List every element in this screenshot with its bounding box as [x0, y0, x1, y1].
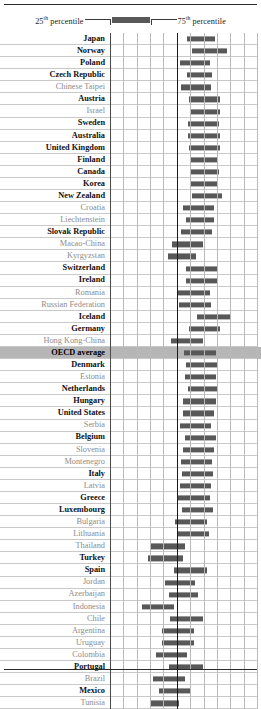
chart-row: Greece — [0, 492, 261, 504]
chart-row: Belgium — [0, 432, 261, 444]
country-plot-area — [110, 299, 261, 311]
country-label: Finland — [0, 154, 110, 166]
range-bar — [178, 495, 210, 500]
chart-row: Japan — [0, 33, 261, 45]
chart-row: Germany — [0, 323, 261, 335]
legend-leader-left — [85, 19, 111, 20]
chart-row: Spain — [0, 564, 261, 576]
country-label: Ireland — [0, 275, 110, 287]
country-plot-area — [110, 685, 261, 697]
country-label: Hong Kong-China — [0, 335, 110, 347]
country-label: Denmark — [0, 359, 110, 371]
range-bar — [192, 193, 222, 198]
chart-row: Turkey — [0, 552, 261, 564]
country-label: Lithuania — [0, 528, 110, 540]
chart-row: Russian Federation — [0, 299, 261, 311]
range-bar — [172, 242, 202, 247]
country-plot-area — [110, 589, 261, 601]
country-label: New Zealand — [0, 190, 110, 202]
chart-row: Denmark — [0, 359, 261, 371]
range-bar-chart: JapanNorwayPolandCzech RepublicChinese T… — [0, 33, 261, 709]
range-bar — [192, 49, 227, 54]
range-bar — [183, 411, 215, 416]
chart-row: Brazil — [0, 673, 261, 685]
country-label: Latvia — [0, 480, 110, 492]
range-bar — [187, 73, 212, 78]
country-label: Iceland — [0, 311, 110, 323]
range-bar — [190, 157, 218, 162]
range-bar — [180, 423, 211, 428]
range-bar — [153, 677, 186, 682]
country-label: Norway — [0, 45, 110, 57]
bottom-divider — [4, 669, 257, 670]
country-plot-area — [110, 287, 261, 299]
range-bar — [179, 302, 211, 307]
range-bar — [180, 61, 209, 66]
country-plot-area — [110, 130, 261, 142]
range-bar — [184, 350, 216, 355]
country-plot-area — [110, 540, 261, 552]
country-label: Montenegro — [0, 456, 110, 468]
country-label: Colombia — [0, 649, 110, 661]
country-label: Argentina — [0, 625, 110, 637]
country-plot-area — [110, 142, 261, 154]
country-label: Switzerland — [0, 262, 110, 274]
range-bar — [181, 85, 210, 90]
chart-row: Czech Republic — [0, 69, 261, 81]
chart-row: Canada — [0, 166, 261, 178]
chart-row: Serbia — [0, 420, 261, 432]
range-bar — [186, 266, 217, 271]
country-label: Thailand — [0, 540, 110, 552]
country-plot-area — [110, 661, 261, 673]
country-plot-area — [110, 238, 261, 250]
range-bar — [181, 459, 212, 464]
country-label: Serbia — [0, 420, 110, 432]
chart-row: Uruguay — [0, 637, 261, 649]
country-label: Estonia — [0, 371, 110, 383]
country-plot-area — [110, 528, 261, 540]
range-bar — [162, 640, 194, 645]
country-plot-area — [110, 395, 261, 407]
country-plot-area — [110, 45, 261, 57]
country-label: Korea — [0, 178, 110, 190]
country-label: Netherlands — [0, 383, 110, 395]
country-plot-area — [110, 335, 261, 347]
chart-row: Indonesia — [0, 601, 261, 613]
range-bar — [197, 314, 231, 319]
country-label: Canada — [0, 166, 110, 178]
chart-row: Slovenia — [0, 444, 261, 456]
country-label: United Kingdom — [0, 142, 110, 154]
range-bar — [169, 592, 199, 597]
range-bar — [186, 218, 215, 223]
country-plot-area — [110, 564, 261, 576]
country-label: Greece — [0, 492, 110, 504]
chart-row: Kyrgyzstan — [0, 250, 261, 262]
chart-row: Azerbaijan — [0, 589, 261, 601]
range-bar — [162, 628, 194, 633]
country-plot-area — [110, 226, 261, 238]
legend-label-75th: 75th percentile — [178, 15, 226, 26]
range-bar — [165, 580, 196, 585]
country-label: Uruguay — [0, 637, 110, 649]
chart-row: New Zealand — [0, 190, 261, 202]
country-label: Jordan — [0, 577, 110, 589]
country-label: Israel — [0, 105, 110, 117]
country-plot-area — [110, 166, 261, 178]
chart-row: Luxembourg — [0, 504, 261, 516]
country-plot-area — [110, 637, 261, 649]
range-bar — [182, 507, 213, 512]
chart-row: Liechtenstein — [0, 214, 261, 226]
country-label: Bulgaria — [0, 516, 110, 528]
country-plot-area — [110, 407, 261, 419]
country-plot-area — [110, 480, 261, 492]
chart-row: Ireland — [0, 275, 261, 287]
range-bar — [191, 181, 218, 186]
chart-row: Hungary — [0, 395, 261, 407]
country-plot-area — [110, 468, 261, 480]
country-plot-area — [110, 275, 261, 287]
chart-row: Jordan — [0, 577, 261, 589]
range-bar — [187, 36, 214, 41]
country-label: OECD average — [0, 347, 110, 359]
country-plot-area — [110, 57, 261, 69]
